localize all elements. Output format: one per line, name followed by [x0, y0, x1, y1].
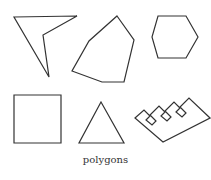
- caption: polygons: [0, 154, 211, 165]
- hexagon: [152, 16, 198, 58]
- comb: [135, 98, 210, 142]
- concave-quadrilateral: [14, 16, 77, 77]
- triangle: [79, 102, 124, 143]
- square: [14, 95, 61, 143]
- polygons-figure: [0, 0, 211, 180]
- irregular-heptagon: [72, 16, 134, 82]
